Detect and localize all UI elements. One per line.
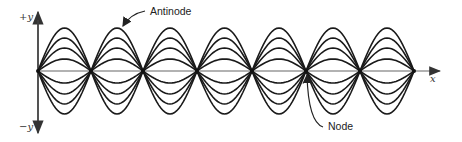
antinode-callout: Antinode [123, 5, 192, 26]
node-label: Node [328, 120, 353, 132]
axes [38, 12, 440, 133]
node-point [36, 69, 40, 73]
pos-y-label: +y [19, 11, 33, 22]
node-point [141, 69, 145, 73]
node-point [250, 69, 254, 73]
node-point [89, 69, 93, 73]
standing-wave-diagram: Antinode Node +y −y x [0, 0, 462, 142]
antinode-label: Antinode [150, 5, 192, 17]
node-point [304, 69, 308, 73]
neg-y-label: −y [19, 121, 33, 132]
node-point [412, 69, 416, 73]
antinode-pointer-arrow [123, 11, 145, 26]
node-point [358, 69, 362, 73]
node-point [195, 69, 199, 73]
wave-canvas: Antinode Node +y −y x [0, 0, 462, 142]
x-label: x [430, 73, 436, 84]
